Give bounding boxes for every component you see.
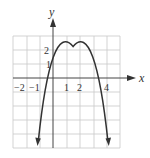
x-tick-label: −2: [14, 82, 25, 93]
x-tick-label: −1: [29, 82, 40, 93]
y-tick-label: 2: [44, 45, 49, 56]
curve-right-arrow-icon: [106, 138, 112, 147]
y-axis-label: y: [48, 5, 55, 19]
x-tick-label: 2: [77, 82, 82, 93]
x-axis-arrow-icon: [127, 75, 136, 81]
parabola-curve: [38, 42, 108, 141]
y-axis-arrow-icon: [50, 18, 56, 27]
x-axis-label: x: [138, 71, 145, 85]
x-tick-label: 1: [64, 82, 69, 93]
y-tick-label: 1: [46, 59, 51, 70]
x-tick-label: 4: [104, 82, 109, 93]
parabola-graph: −2 −1 1 2 4 1 2 x y: [0, 0, 150, 158]
x-axis: [13, 75, 136, 81]
y-axis: [50, 18, 56, 148]
